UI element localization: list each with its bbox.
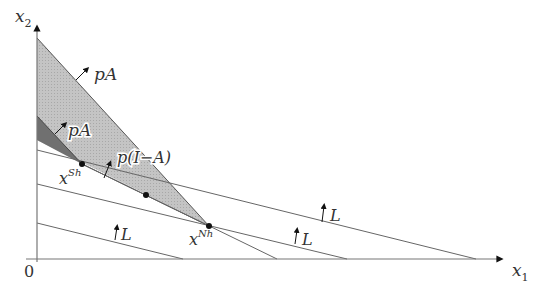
- sh-to-axis-line: [82, 164, 277, 259]
- x-Nh-label: xNh: [189, 228, 213, 249]
- pA-large-arrow-icon: [76, 69, 87, 80]
- x2-axis-label: x2: [15, 6, 32, 30]
- pA-small-label: pA: [68, 120, 91, 140]
- L-label-3: L: [120, 225, 132, 244]
- L-label-1: L: [329, 206, 341, 225]
- labor-line-1: [37, 150, 476, 259]
- pA-large-label: pA: [94, 64, 117, 84]
- point-mid: [143, 192, 149, 198]
- L-label-2: L: [301, 230, 313, 249]
- L-arrow-3-icon: [115, 227, 117, 240]
- labor-line-3: [37, 223, 183, 259]
- diagram-canvas: x2 x1 0 pA pA p(I−A) xSh xNh L L L: [0, 0, 535, 301]
- p-I-A-label: p(I−A): [117, 148, 171, 167]
- L-arrow-2-icon: [295, 230, 297, 244]
- x1-axis-label: x1: [512, 260, 529, 284]
- L-arrow-1-icon: [322, 206, 324, 222]
- origin-label: 0: [24, 262, 34, 281]
- x-Sh-label: xSh: [59, 167, 81, 188]
